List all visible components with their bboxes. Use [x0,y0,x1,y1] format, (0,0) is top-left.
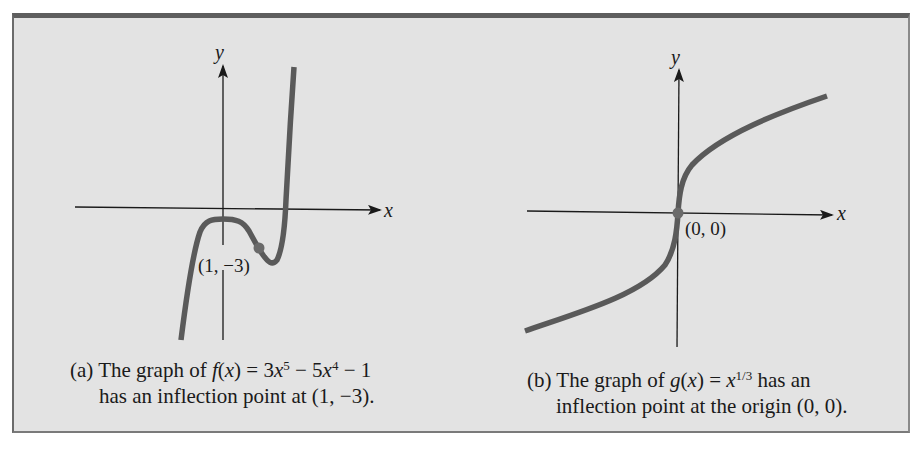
caption-text: = [704,368,726,392]
panel-b-y-label: y [671,46,680,69]
caption-text: ) [697,368,704,392]
caption-variable: x [225,358,234,382]
caption-text: (a) The graph of [70,358,212,382]
caption-text: − 1 [338,358,371,382]
caption-function-name: g [670,368,681,392]
panel-b-caption-line1: (b) The graph of g(x) = x1/3 has an [527,368,811,392]
panel-b-x-label: x [837,202,846,225]
panel-a-y-label: y [215,41,224,64]
caption-variable: x [726,368,735,392]
panel-a-caption-line2: has an inflection point at (1, −3). [99,384,374,408]
caption-variable: x [323,358,332,382]
panel-a-axes [75,66,380,340]
caption-text: ( [681,368,688,392]
panel-a-inflection-point [254,243,265,254]
panel-b-inflection-point [673,208,684,219]
panel-b-caption-line2: inflection point at the origin (0, 0). [556,394,848,418]
caption-text: − 5 [290,358,323,382]
panel-a-x-axis [75,207,380,210]
caption-text: ( [218,358,225,382]
panel-a-point-label: (1, −3) [198,255,250,277]
panel-a-curve-f [181,67,294,340]
caption-variable: x [688,368,697,392]
panel-a-caption-line1: (a) The graph of f(x) = 3x5 − 5x4 − 1 [70,358,371,382]
caption-text: = 3 [241,358,274,382]
caption-text: has an [752,368,810,392]
caption-text: ) [234,358,241,382]
caption-text: (b) The graph of [527,368,670,392]
caption-variable: x [274,358,283,382]
panel-b-point-label: (0, 0) [685,218,726,240]
panel-a-x-label: x [384,199,393,222]
caption-exponent: 1/3 [736,368,753,383]
